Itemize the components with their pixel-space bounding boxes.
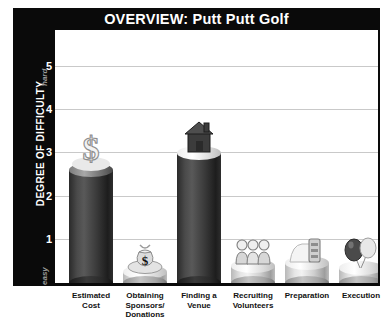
bar-estimated-cost[interactable]: $ <box>69 170 113 283</box>
bar-obtaining-sponsors[interactable]: $ <box>123 272 167 283</box>
bar-preparation[interactable] <box>285 263 329 283</box>
chart-poster: OVERVIEW: Putt Putt Golf DEGREE OF DIFFI… <box>0 0 392 323</box>
plot-area: $ $ <box>55 30 380 286</box>
page-title: OVERVIEW: Putt Putt Golf <box>104 11 289 27</box>
bar-execution[interactable] <box>339 268 380 283</box>
svg-text:$: $ <box>83 130 100 167</box>
chart-title-bar: OVERVIEW: Putt Putt Golf <box>13 8 380 30</box>
gridline-4 <box>55 109 378 110</box>
balloons-icon <box>342 236 380 274</box>
bar-bottom-ellipse <box>69 276 113 286</box>
bar-finding-venue[interactable] <box>177 153 221 283</box>
volunteers-group-icon <box>233 238 273 272</box>
x-axis-labels: Estimated Cost Obtaining Sponsors/ Donat… <box>55 289 380 323</box>
bar-bottom-ellipse <box>231 276 275 286</box>
y-tick-5: 5 <box>46 61 52 72</box>
x-label-line3: Donations <box>109 310 181 320</box>
y-axis-title: DEGREE OF DIFFICULTY <box>35 69 46 219</box>
y-axis-low-label: easy <box>40 267 49 285</box>
bar-body <box>69 170 113 283</box>
y-axis-band: DEGREE OF DIFFICULTY hard easy 5 4 3 2 1 <box>13 30 55 286</box>
x-label-line1: Execution <box>325 291 392 301</box>
supplies-icon <box>288 235 326 269</box>
bar-body <box>177 153 221 283</box>
gridline-5 <box>55 66 378 67</box>
bar-bottom-ellipse <box>177 276 221 286</box>
y-tick-1: 1 <box>46 234 52 245</box>
x-label-execution: Execution <box>325 291 392 301</box>
bar-bottom-ellipse <box>285 276 329 286</box>
bar-recruiting-volunteers[interactable] <box>231 266 275 283</box>
house-icon <box>179 115 219 159</box>
dollar-sign-icon: $ <box>71 130 111 176</box>
svg-text:$: $ <box>142 253 149 268</box>
y-tick-3: 3 <box>46 147 52 158</box>
money-bag-icon: $ <box>127 242 163 278</box>
bar-bottom-ellipse <box>339 276 380 286</box>
y-tick-4: 4 <box>46 104 52 115</box>
x-label-line2: Volunteers <box>217 301 289 311</box>
y-tick-2: 2 <box>46 191 52 202</box>
